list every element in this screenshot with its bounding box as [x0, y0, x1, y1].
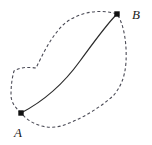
point-label-b: B [132, 8, 140, 21]
point-marker-a [18, 110, 23, 115]
point-marker-b [114, 11, 119, 16]
path-diagram-figure: A B [0, 0, 152, 145]
point-label-a: A [14, 126, 22, 139]
figure-canvas [0, 0, 152, 145]
solid-curve-a-to-b [21, 14, 117, 113]
dashed-region-boundary [11, 11, 126, 127]
